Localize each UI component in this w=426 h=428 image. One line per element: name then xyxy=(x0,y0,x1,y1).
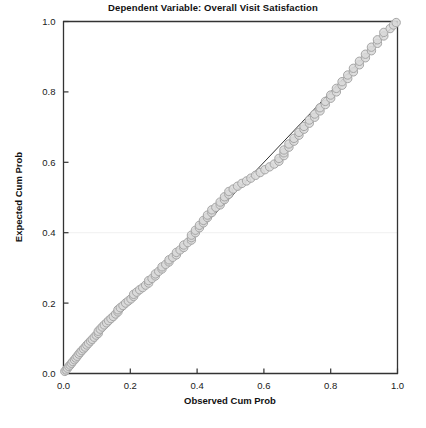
x-tick-label: 0.8 xyxy=(324,380,337,391)
x-tick-label: 0.6 xyxy=(257,380,270,391)
normal-pp-plot-figure: Dependent Variable: Overall Visit Satisf… xyxy=(0,0,426,428)
x-tick-label: 0.4 xyxy=(190,380,203,391)
plot-svg: 0.00.20.40.60.81.0 0.00.20.40.60.81.0 Ex… xyxy=(0,0,426,428)
y-tick-label: 0.8 xyxy=(42,86,55,97)
x-axis-title: Observed Cum Prob xyxy=(184,395,276,406)
x-tick-label: 0.2 xyxy=(124,380,137,391)
y-tick-label: 1.0 xyxy=(42,16,55,27)
y-axis-title: Expected Cum Prob xyxy=(13,152,24,242)
data-points xyxy=(61,18,401,375)
x-tick-label: 0.0 xyxy=(57,380,70,391)
y-axis-ticks: 0.00.20.40.60.81.0 xyxy=(42,16,68,379)
x-tick-label: 1.0 xyxy=(391,380,404,391)
y-tick-label: 0.6 xyxy=(42,157,55,168)
y-tick-label: 0.0 xyxy=(42,368,55,379)
y-tick-label: 0.2 xyxy=(42,298,55,309)
x-axis-ticks: 0.00.20.40.60.81.0 xyxy=(57,369,404,391)
y-tick-label: 0.4 xyxy=(42,227,55,238)
data-point xyxy=(392,18,400,26)
